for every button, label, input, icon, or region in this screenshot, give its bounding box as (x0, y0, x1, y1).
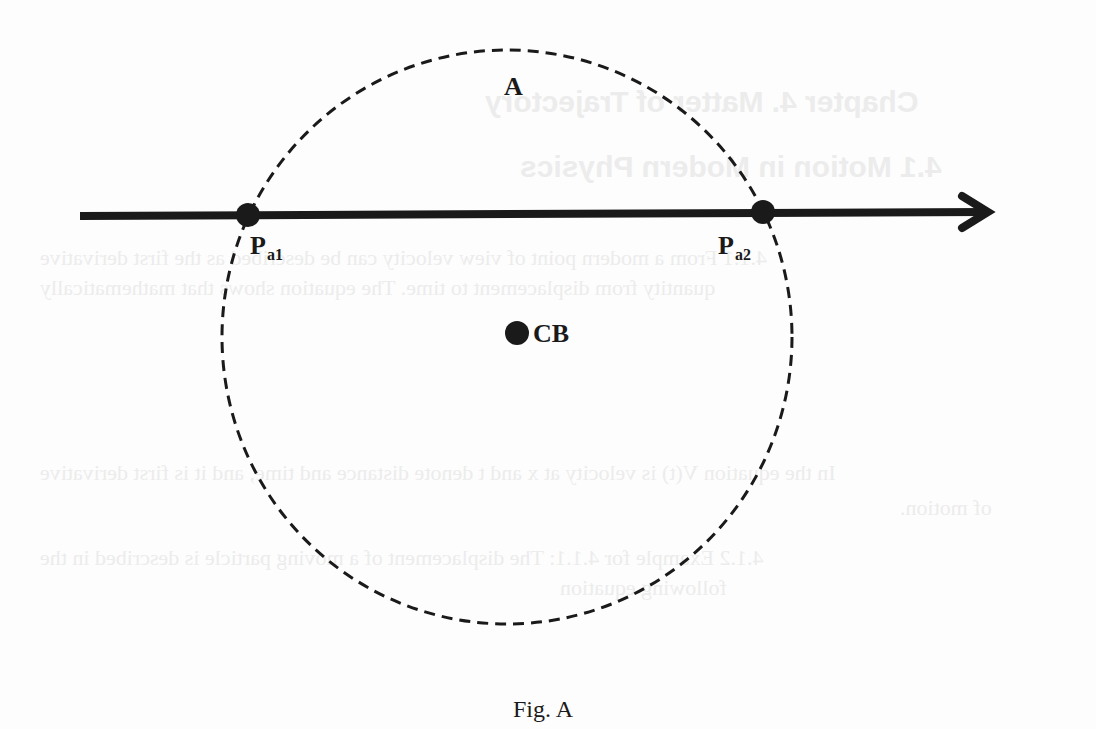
point-label-pa1: Pa1 (250, 233, 283, 263)
trajectory-line (80, 212, 986, 216)
point-label-pa2: Pa2 (718, 233, 751, 263)
center-label-cb: CB (533, 321, 569, 347)
region-label-a: A (504, 74, 523, 100)
point-label-subscript: a1 (267, 246, 283, 263)
point-label-subscript: a2 (735, 246, 751, 263)
diagram-canvas (0, 0, 1096, 729)
figure-caption: Fig. A (513, 696, 573, 723)
center-cb-dot (505, 321, 529, 345)
point-label-base: P (250, 231, 266, 260)
point-label-base: P (718, 231, 734, 260)
point-pa1-dot (236, 203, 260, 227)
figure-page: Chapter 4. Matter of Trajectory 4.1 Moti… (0, 0, 1096, 729)
point-pa2-dot (751, 200, 775, 224)
